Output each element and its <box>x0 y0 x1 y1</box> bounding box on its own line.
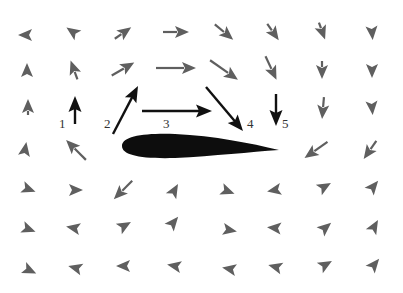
field-arrow <box>18 29 32 41</box>
field-arrow <box>266 183 282 197</box>
field-arrow <box>116 260 130 272</box>
field-arrow <box>18 141 32 157</box>
field-arrow <box>366 64 378 78</box>
field-arrow <box>116 217 134 234</box>
field-arrow <box>301 137 331 163</box>
field-arrow <box>111 22 134 43</box>
highlight-arrow-1 <box>69 96 82 124</box>
airfoil-shape <box>122 134 279 158</box>
field-arrow <box>67 260 84 275</box>
field-arrow <box>163 26 189 38</box>
field-arrow <box>21 262 39 279</box>
field-arrow <box>20 181 37 197</box>
field-arrow <box>316 61 328 79</box>
field-arrow <box>366 255 384 273</box>
field-arrow <box>69 184 83 196</box>
field-arrow <box>222 223 238 237</box>
field-arrow <box>317 218 335 236</box>
field-arrow <box>156 62 196 74</box>
field-arrow <box>109 57 138 80</box>
field-arrow <box>62 136 90 164</box>
field-arrow <box>366 217 383 235</box>
field-arrow <box>267 259 284 274</box>
field-arrow <box>65 59 83 82</box>
arrow-label-3: 3 <box>163 117 170 130</box>
highlight-arrow-2 <box>107 83 144 137</box>
field-arrow <box>262 20 283 43</box>
arrow-label-4: 4 <box>247 117 254 130</box>
field-arrow <box>21 63 33 77</box>
field-arrow <box>166 259 182 273</box>
highlight-arrow-3 <box>142 105 212 118</box>
field-arrow <box>316 178 334 195</box>
highlight-arrow-5 <box>270 94 283 126</box>
field-arrow <box>365 177 383 195</box>
flow-field-plot <box>0 0 403 293</box>
field-arrow <box>359 138 381 163</box>
vector-field-diagram: 1 2 3 4 5 <box>0 0 403 293</box>
field-arrow <box>166 181 183 199</box>
field-arrow <box>20 221 37 237</box>
arrow-label-1: 1 <box>59 117 66 130</box>
field-arrow <box>267 221 282 234</box>
highlight-arrow-4 <box>201 83 248 135</box>
field-arrow <box>22 99 34 115</box>
field-arrow <box>317 256 335 273</box>
field-arrow <box>260 54 282 83</box>
field-arrow <box>316 97 330 120</box>
arrow-label-2: 2 <box>104 117 111 130</box>
field-arrow <box>219 183 236 199</box>
field-arrow <box>365 100 378 115</box>
field-arrow <box>221 262 237 276</box>
field-arrow <box>63 22 81 40</box>
field-arrow <box>110 177 137 204</box>
field-arrow <box>313 20 330 41</box>
field-arrow <box>65 221 81 235</box>
field-arrow <box>211 20 237 45</box>
arrow-label-5: 5 <box>282 117 289 130</box>
field-arrow <box>207 55 242 84</box>
field-arrow <box>165 213 183 231</box>
field-arrow <box>365 25 378 40</box>
